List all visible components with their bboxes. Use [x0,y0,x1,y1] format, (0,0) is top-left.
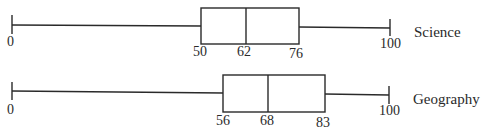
geography-q3-label: 83 [316,115,330,130]
box-plot-chart: 0 50 62 76 100 Science 0 56 68 83 100 Ge… [0,0,484,130]
science-max-label: 100 [380,36,401,51]
geography-median-label: 68 [260,113,274,128]
science-q1-label: 50 [193,44,207,59]
science-series-label: Science [414,24,461,40]
geography-q1-label: 56 [216,113,230,128]
geography-right-whisker [325,94,389,95]
geography-boxplot: 0 56 68 83 100 Geography [7,75,480,130]
geography-max-label: 100 [379,103,400,118]
geography-box [223,75,325,112]
science-right-whisker [299,27,390,28]
science-q3-label: 76 [289,46,303,61]
geography-left-whisker [12,91,223,93]
science-left-whisker [12,25,201,26]
geography-min-label: 0 [7,102,14,117]
science-box [201,8,299,44]
science-median-label: 62 [237,44,251,59]
science-min-label: 0 [7,34,14,49]
geography-series-label: Geography [413,91,480,107]
science-boxplot: 0 50 62 76 100 Science [7,8,461,61]
